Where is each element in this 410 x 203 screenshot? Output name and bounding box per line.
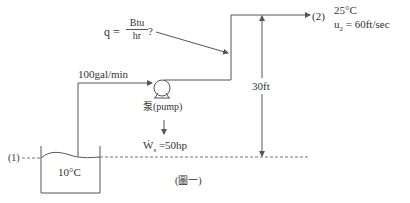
heat-arrow — [156, 32, 228, 53]
pump-label: 泵(pump) — [143, 102, 182, 112]
outlet-pipe — [164, 15, 310, 80]
figure-caption: (圖一) — [175, 176, 202, 186]
velocity-subscript: 2 — [340, 25, 344, 33]
point2-label: (2) — [312, 11, 325, 22]
flow-rate-label: 100gal/min — [78, 69, 128, 80]
shaft-work-value: =50hp — [159, 139, 187, 151]
heat-fraction: Btu hr — [126, 18, 148, 41]
point1-label: (1) — [8, 153, 20, 163]
outlet-velocity: u2 = 60ft/sec — [334, 19, 390, 33]
tank-temperature: 10°C — [58, 167, 81, 178]
height-label: 30ft — [252, 81, 270, 92]
outlet-temperature: 25°C — [334, 5, 357, 16]
pump-icon — [154, 80, 170, 98]
inlet-pipe — [78, 83, 152, 157]
shaft-work-subscript: s — [153, 146, 156, 154]
shaft-work-symbol: Ẇ — [143, 139, 153, 151]
heat-numerator: Btu — [126, 18, 148, 30]
heat-lhs: q = — [104, 26, 120, 38]
velocity-value: = 60ft/sec — [346, 18, 390, 30]
heat-denominator: hr — [126, 30, 148, 41]
shaft-work-label: Ẇs =50hp — [143, 140, 187, 154]
heat-suffix: ? — [148, 26, 153, 37]
